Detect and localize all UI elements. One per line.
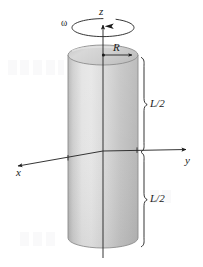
angular-velocity-label-omega: ω [61, 19, 67, 29]
rotation-arrowhead-icon [105, 24, 114, 29]
length-label-upper-half: L/2 [150, 98, 165, 109]
axis-label-y: y [185, 155, 190, 166]
axis-label-x: x [16, 167, 21, 178]
figure-canvas [0, 0, 203, 267]
brace-upper-half-length [141, 58, 147, 152]
radius-origin-dot [102, 54, 105, 57]
brace-lower-half-length [141, 153, 147, 247]
length-label-lower-half: L/2 [150, 193, 165, 204]
physics-figure-rotating-cylinder: z y x ω R L/2 L/2 [0, 0, 203, 267]
axis-label-z: z [99, 6, 103, 17]
radius-label-R: R [113, 42, 120, 53]
